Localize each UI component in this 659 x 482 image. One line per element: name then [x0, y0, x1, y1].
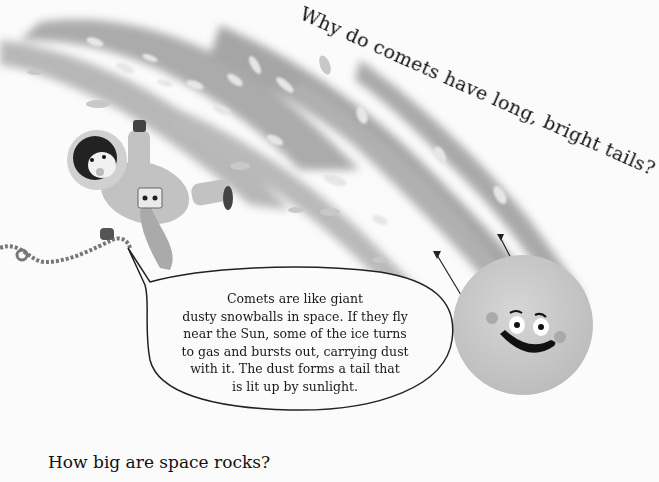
bubble-line: Comets are like giant — [150, 290, 440, 308]
section-heading: How big are space rocks? — [48, 452, 270, 472]
speech-bubble-text: Comets are like giant dusty snowballs in… — [150, 290, 440, 395]
comet-character — [433, 234, 593, 395]
bubble-line: with it. The dust forms a tail that — [150, 360, 440, 378]
bubble-line: near the Sun, some of the ice turns — [150, 325, 440, 343]
bubble-line: is lit up by sunlight. — [150, 378, 440, 396]
bubble-line: to gas and bursts out, carrying dust — [150, 343, 440, 361]
bubble-line: dusty snowballs in space. If they fly — [150, 308, 440, 326]
